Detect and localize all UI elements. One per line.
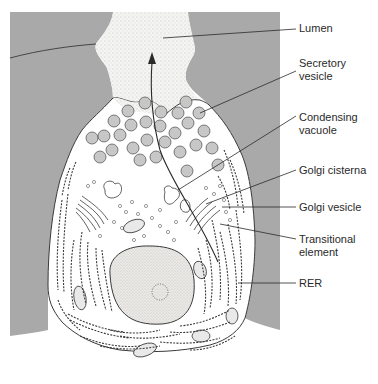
label-transitional-element: Transitional element — [299, 233, 355, 259]
label-golgi-cisterna: Golgi cisterna — [299, 164, 366, 177]
label-lumen: Lumen — [299, 22, 333, 35]
label-secretory-vesicle: Secretory vesicle — [299, 57, 346, 83]
label-rer: RER — [299, 277, 322, 290]
nucleus — [110, 246, 194, 324]
label-golgi-vesicle: Golgi vesicle — [299, 201, 361, 214]
label-condensing-vacuole: Condensing vacuole — [299, 111, 358, 137]
